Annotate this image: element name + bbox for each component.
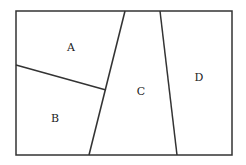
divider-abc <box>89 11 125 155</box>
region-label-c: C <box>137 85 145 98</box>
region-label-b: B <box>51 112 59 125</box>
region-label-a: A <box>66 41 76 54</box>
divider-cd <box>160 11 177 155</box>
region-map-diagram: A B C D <box>0 0 246 165</box>
region-label-d: D <box>195 71 204 84</box>
divider-ab <box>16 65 106 90</box>
diagram-svg: A B C D <box>0 0 246 165</box>
